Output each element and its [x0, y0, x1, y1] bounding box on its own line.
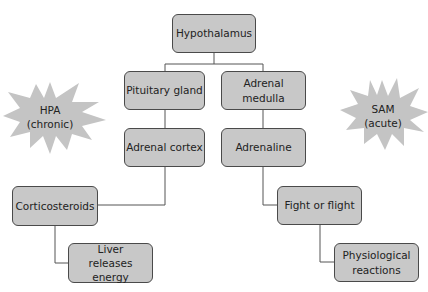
liver-releases-energy-box: Liver releases energy [68, 243, 153, 283]
hpa-subtitle: (chronic) [20, 118, 80, 132]
hypothalamus-box: Hypothalamus [172, 14, 256, 53]
pituitary-gland-label: Pituitary gland [126, 83, 202, 97]
hpa-title: HPA [20, 104, 80, 118]
liver-releases-energy-label: Liver releases energy [79, 242, 142, 285]
hypothalamus-label: Hypothalamus [176, 26, 252, 40]
adrenaline-box: Adrenaline [221, 128, 306, 167]
adrenal-cortex-box: Adrenal cortex [124, 128, 205, 167]
physiological-reactions-box: Physiological reactions [334, 243, 419, 282]
adrenal-cortex-label: Adrenal cortex [126, 140, 203, 154]
corticosteroids-label: Corticosteroids [16, 199, 95, 213]
hpa-star-label: HPA (chronic) [20, 104, 80, 131]
fight-or-flight-label: Fight or flight [284, 198, 354, 212]
adrenaline-label: Adrenaline [235, 140, 291, 154]
pituitary-gland-box: Pituitary gland [124, 71, 205, 110]
adrenal-medulla-label: Adrenal medulla [222, 76, 305, 104]
fight-or-flight-box: Fight or flight [277, 186, 362, 225]
sam-title: SAM [353, 103, 413, 117]
physiological-reactions-label: Physiological reactions [339, 248, 414, 276]
sam-star-label: SAM (acute) [353, 103, 413, 130]
sam-subtitle: (acute) [353, 117, 413, 131]
corticosteroids-box: Corticosteroids [12, 186, 98, 226]
adrenal-medulla-box: Adrenal medulla [221, 71, 306, 110]
